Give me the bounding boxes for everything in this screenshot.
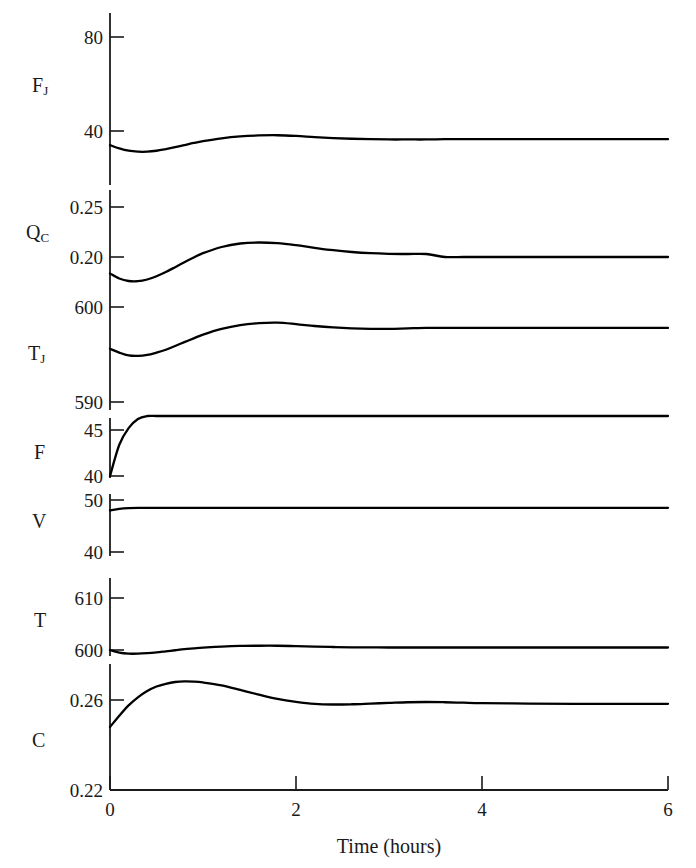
variable-label-q-c-subscript: C xyxy=(40,230,49,245)
variable-label-t-j-subscript: J xyxy=(40,351,45,366)
y-tick-label-3-0: 45 xyxy=(84,421,103,440)
variable-label-t: T xyxy=(34,610,46,630)
data-curve-t xyxy=(110,646,668,654)
y-tick-label-3-1: 40 xyxy=(84,467,103,486)
y-tick-label-0-0: 80 xyxy=(84,28,103,47)
x-tick-label-0: 0 xyxy=(105,800,115,819)
data-curve-t-j xyxy=(110,323,668,356)
variable-label-v: V xyxy=(32,511,46,531)
variable-label-f: F xyxy=(34,442,45,462)
x-tick-label-3: 6 xyxy=(663,800,673,819)
variable-label-q-c: QC xyxy=(26,222,49,242)
y-tick-label-1-1: 0.20 xyxy=(70,248,103,267)
data-curve-f xyxy=(110,416,668,476)
variable-label-f-j: FJ xyxy=(32,75,48,95)
data-curve-v xyxy=(110,508,668,511)
x-tick-label-2: 4 xyxy=(477,800,487,819)
variable-label-c: C xyxy=(32,730,45,750)
y-tick-label-4-0: 50 xyxy=(84,491,103,510)
variable-label-t-j: TJ xyxy=(28,343,45,363)
x-axis-title: Time (hours) xyxy=(337,836,441,856)
y-tick-label-2-1: 590 xyxy=(75,393,104,412)
x-tick-label-1: 2 xyxy=(291,800,301,819)
plot-svg xyxy=(0,0,696,868)
y-tick-label-6-0: 0.26 xyxy=(70,691,103,710)
data-curve-c xyxy=(110,681,668,727)
data-curve-q-c xyxy=(110,242,668,281)
y-tick-label-0-1: 40 xyxy=(84,122,103,141)
y-tick-label-5-0: 610 xyxy=(75,589,104,608)
y-tick-label-4-1: 40 xyxy=(84,543,103,562)
variable-label-f-j-subscript: J xyxy=(43,83,48,98)
data-curve-f-j xyxy=(110,135,668,152)
y-tick-label-6-1: 0.22 xyxy=(70,781,103,800)
figure-container: 8040FJ0.250.20QC600590TJ4540F5040V610600… xyxy=(0,0,696,868)
y-tick-label-1-0: 0.25 xyxy=(70,198,103,217)
y-tick-label-5-1: 600 xyxy=(75,641,104,660)
y-tick-label-2-0: 600 xyxy=(75,298,104,317)
